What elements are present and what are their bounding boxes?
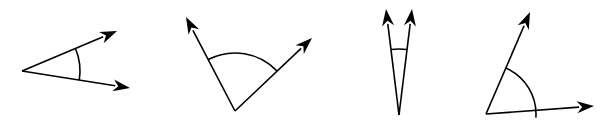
acute-angle-with-horizontal-base [486,12,594,118]
very-acute-angle-upward-opening-left-ray [388,24,399,115]
acute-angle-narrow-right-opening-upper-ray [22,37,103,71]
obtuse-angle-upward-opening [186,17,312,111]
acute-angle-with-horizontal-base-horizontal-ray [486,107,579,114]
acute-angle-with-horizontal-base-upper-ray [486,26,524,114]
acute-angle-narrow-right-opening [22,31,130,91]
very-acute-angle-upward-opening [382,9,416,115]
acute-angle-narrow-right-opening-lower-ray [22,71,115,86]
obtuse-angle-upward-opening-measure-arc [208,53,277,71]
very-acute-angle-upward-opening-right-ray [399,24,410,115]
angles-figure [0,0,606,128]
obtuse-angle-upward-opening-left-ray [193,30,235,111]
obtuse-angle-upward-opening-right-ray [235,48,301,111]
obtuse-angle-upward-opening-left-ray-arrowhead-icon [186,17,199,35]
angles-layer [22,9,594,118]
acute-angle-with-horizontal-base-horizontal-ray-arrowhead-icon [577,101,594,113]
acute-angle-narrow-right-opening-measure-arc [75,49,80,81]
